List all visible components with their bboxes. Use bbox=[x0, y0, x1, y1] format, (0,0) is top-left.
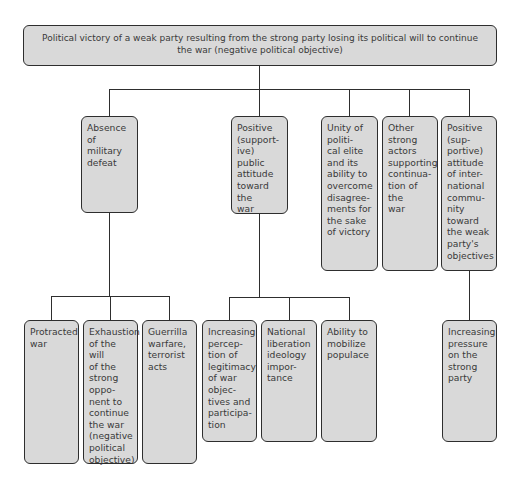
connector bbox=[259, 213, 260, 297]
root-node: Political victory of a weak party result… bbox=[23, 25, 497, 66]
connector bbox=[109, 212, 110, 296]
node-other-strong-actors: Other strong actors supporting continua-… bbox=[382, 116, 438, 271]
node-pressure-strong-party: Increasing pressure on the strong party bbox=[442, 320, 497, 442]
node-guerrilla-warfare: Guerrilla warfare, terrorist acts bbox=[142, 320, 197, 464]
node-positive-public-attitude: Positive (support- ive) public attitude … bbox=[231, 116, 288, 214]
connector bbox=[259, 89, 260, 116]
node-exhaustion-of-will: Exhaustion of the will of the strong opp… bbox=[83, 320, 138, 464]
connector bbox=[469, 270, 470, 320]
connector bbox=[110, 296, 111, 320]
connector bbox=[169, 296, 170, 320]
connector bbox=[409, 89, 410, 116]
connector bbox=[349, 297, 350, 320]
connector bbox=[349, 89, 350, 116]
connector bbox=[109, 89, 110, 116]
connector bbox=[229, 297, 230, 320]
node-positive-international-attitude: Positive (sup- portive) attitude of inte… bbox=[441, 116, 497, 271]
node-unity-political-elite: Unity of politi- cal elite and its abili… bbox=[321, 116, 378, 271]
node-mobilize-populace: Ability to mobilize populace bbox=[321, 320, 377, 442]
connector bbox=[109, 89, 470, 90]
connector bbox=[469, 89, 470, 116]
node-legitimacy-perception: Increasing percep- tion of legitimacy of… bbox=[202, 320, 257, 442]
connector bbox=[259, 65, 260, 89]
connector bbox=[289, 297, 290, 320]
node-protracted-war: Protracted war bbox=[24, 320, 79, 464]
node-absence-military-defeat: Absence of military defeat bbox=[81, 116, 138, 213]
node-national-liberation-ideology: National liberation ideology impor- tanc… bbox=[261, 320, 317, 442]
connector bbox=[51, 296, 52, 320]
